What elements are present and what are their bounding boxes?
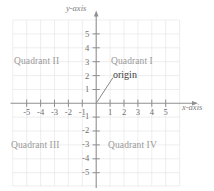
quadrant-4-label: Quadrant IV [108,141,157,151]
y-tick-label-neg1: -1 [73,112,89,121]
y-tick-label-5: 5 [73,30,89,39]
y-tick-label-4: 4 [73,44,89,53]
x-tick-label-5: 5 [161,108,171,117]
x-axis-label: x-axis [182,103,202,112]
y-tick-label-neg3: -3 [73,140,89,149]
y-tick-label-neg4: -4 [73,154,89,163]
coordinate-plane-figure: -5 -4 -3 -2 -1 1 2 3 4 5 5 4 3 2 1 -1 -2… [0,0,214,191]
x-tick-label-3: 3 [133,108,143,117]
y-tick-label-2: 2 [73,72,89,81]
quadrant-1-label: Quadrant I [111,57,153,67]
y-axis-label: y-axis [66,4,86,13]
quadrant-2-label: Quadrant II [14,57,59,67]
y-axis-arrowhead [94,11,99,17]
quadrant-3-label: Quadrant III [11,141,59,151]
y-tick-label-neg5: -5 [73,168,89,177]
x-tick-label-2: 2 [119,108,129,117]
x-tick-label-4: 4 [147,108,157,117]
y-tick-label-neg2: -2 [73,126,89,135]
x-tick-label-1: 1 [105,108,115,117]
origin-leader-line [97,78,113,103]
y-tick-label-3: 3 [73,58,89,67]
plane-svg [0,0,214,191]
y-tick-label-1: 1 [73,85,89,94]
origin-label: origin [113,70,137,80]
